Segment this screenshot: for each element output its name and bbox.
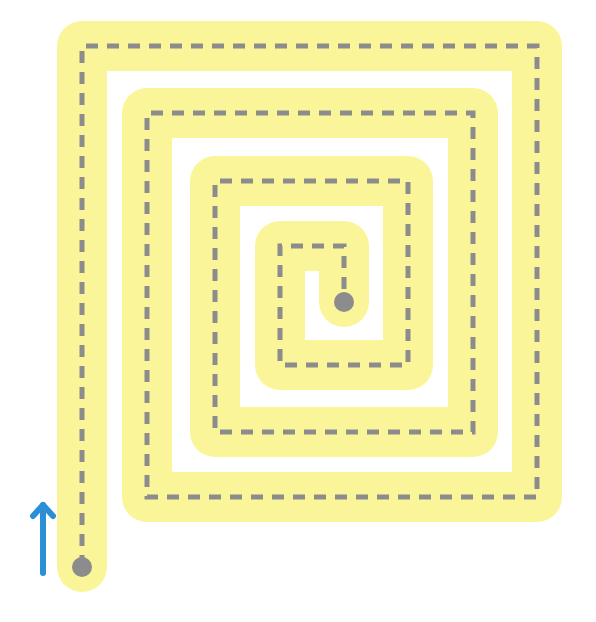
start-dot[interactable] bbox=[72, 557, 92, 577]
spiral-maze bbox=[0, 0, 596, 622]
end-dot[interactable] bbox=[334, 292, 354, 312]
